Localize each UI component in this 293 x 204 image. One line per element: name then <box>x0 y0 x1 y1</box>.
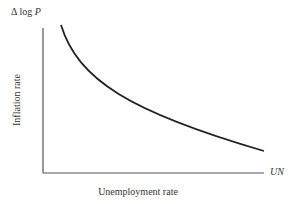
y-axis-symbol: Δ log P <box>11 6 41 17</box>
chart-plot-area <box>0 0 293 204</box>
y-axis-title: Inflation rate <box>11 74 22 126</box>
x-axis-title: Unemployment rate <box>98 186 178 197</box>
phillips-curve-line <box>61 25 264 151</box>
y-axis-symbol-var: P <box>35 6 41 17</box>
x-axis-symbol: UN <box>270 166 284 177</box>
y-axis-symbol-prefix: Δ log <box>11 6 35 17</box>
